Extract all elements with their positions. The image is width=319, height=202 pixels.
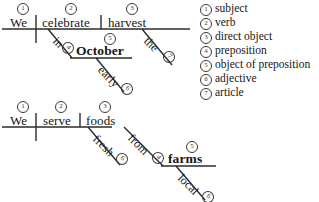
legend-label-7: article [215, 86, 319, 99]
d1-adjective-number: 6 [119, 81, 136, 98]
legend-item-subject: 1 subject [200, 2, 319, 16]
legend-number-7: 7 [200, 88, 212, 100]
legend: 1 subject 2 verb 3 direct object 4 prepo… [200, 2, 319, 100]
d1-verb-number: 2 [65, 3, 77, 15]
d1-adjective-word: early [96, 64, 122, 90]
d2-adjective-word: fresh [91, 133, 117, 159]
d1-subject-word: We [10, 16, 27, 29]
d2-prep-object-number: 5 [186, 141, 198, 153]
d1-verb-word: celebrate [42, 16, 90, 29]
legend-label-4: preposition [215, 44, 319, 57]
d2-adjective2-word: local [176, 172, 201, 197]
d2-adjective-number: 6 [114, 151, 131, 168]
legend-label-5: object of preposition [215, 58, 319, 71]
d2-adjective2-number: 6 [200, 189, 217, 202]
d1-prep-object-word: October [76, 44, 124, 58]
legend-item-article: 7 article [200, 86, 319, 100]
d2-subject-word: We [10, 114, 27, 127]
d2-verb-number: 2 [55, 101, 67, 113]
d2-direct-object-word: foods [86, 114, 115, 127]
legend-label-1: subject [215, 2, 319, 15]
legend-label-6: adjective [215, 72, 319, 85]
legend-item-object-of-preposition: 5 object of preposition [200, 58, 319, 72]
legend-number-4: 4 [200, 46, 212, 58]
legend-label-2: verb [215, 16, 319, 29]
d1-article-word: the [142, 35, 161, 54]
legend-number-2: 2 [200, 18, 212, 30]
d1-article-number: 7 [161, 49, 178, 66]
d1-direct-object-number: 3 [126, 3, 138, 15]
legend-number-3: 3 [200, 32, 212, 44]
d1-direct-object-word: harvest [108, 16, 146, 29]
legend-item-adjective: 6 adjective [200, 72, 319, 86]
legend-item-direct-object: 3 direct object [200, 30, 319, 44]
d2-prep-object-word: farms [168, 152, 202, 166]
legend-item-preposition: 4 preposition [200, 44, 319, 58]
d2-direct-object-number: 3 [99, 101, 111, 113]
legend-number-5: 5 [200, 60, 212, 72]
d2-preposition-number: 4 [150, 150, 167, 167]
sentence-diagram-figure: We 1 celebrate 2 harvest 3 in 4 October … [0, 0, 319, 202]
legend-number-1: 1 [200, 4, 212, 16]
d1-prep-object-number: 5 [104, 33, 116, 45]
d2-preposition-word: from [126, 132, 151, 157]
d2-subject-number: 1 [17, 101, 29, 113]
d1-subject-number: 1 [17, 3, 29, 15]
legend-item-verb: 2 verb [200, 16, 319, 30]
legend-number-6: 6 [200, 74, 212, 86]
d2-verb-word: serve [43, 114, 71, 127]
legend-label-3: direct object [215, 30, 319, 43]
